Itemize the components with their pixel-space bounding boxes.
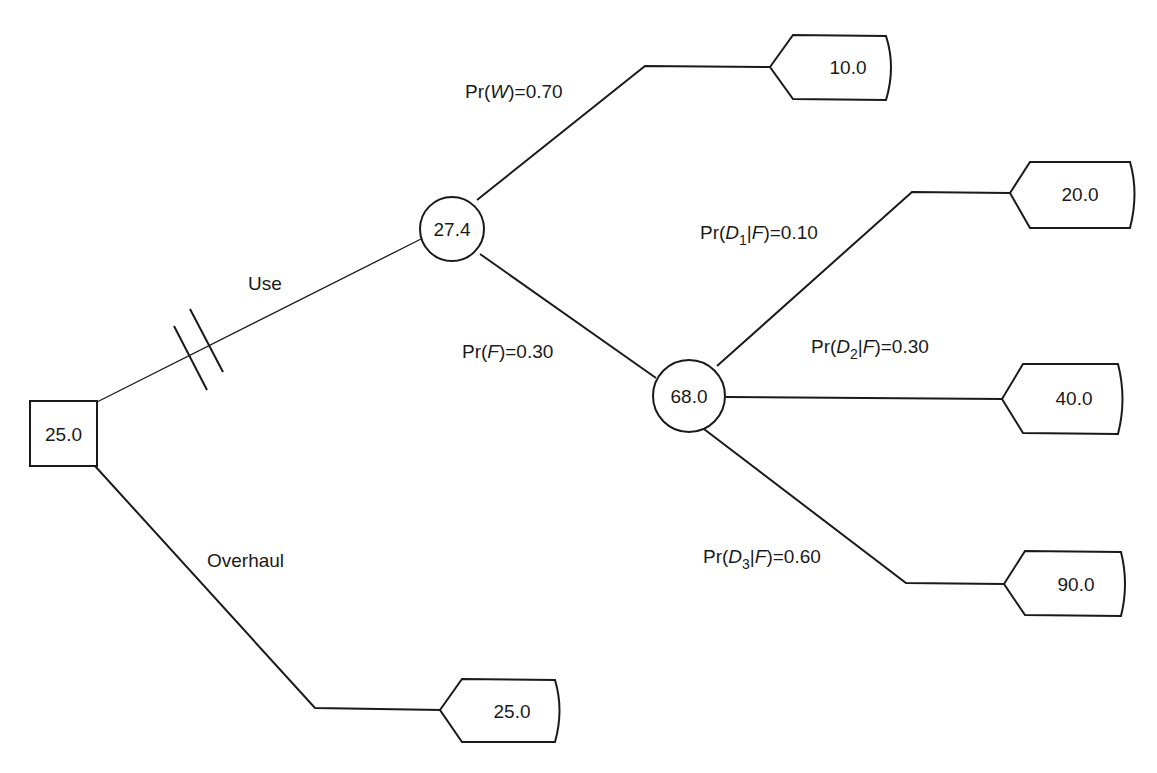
- branch-label-use: Use: [248, 273, 282, 294]
- branch-label-d3: Pr(D3|F)=0.60: [703, 546, 821, 572]
- chance-node-use: 27.4: [420, 197, 484, 261]
- edge-overhaul: [95, 466, 442, 710]
- terminal-node-d2: 40.0: [1002, 364, 1123, 434]
- branch-label-fails: Pr(F)=0.30: [462, 341, 553, 362]
- branch-label-overhaul: Overhaul: [207, 550, 284, 571]
- terminal-node-d3: 90.0: [1004, 551, 1125, 616]
- terminal-node-works: 10.0: [770, 35, 891, 100]
- chance-node-failure: 68.0: [653, 360, 725, 432]
- chance-node-failure-value: 68.0: [671, 386, 708, 407]
- decision-node: 25.0: [30, 401, 97, 466]
- decision-tree-diagram: 25.0 27.4 68.0 10.0 20.0 40.0 90.0 25.0 …: [0, 0, 1157, 773]
- blocked-branch-marker: [174, 326, 207, 390]
- decision-node-value: 25.0: [45, 424, 82, 445]
- terminal-node-overhaul: 25.0: [440, 679, 560, 742]
- terminal-overhaul-value: 25.0: [494, 701, 531, 722]
- branch-label-works: Pr(W)=0.70: [465, 81, 563, 102]
- terminal-node-d1: 20.0: [1010, 162, 1135, 228]
- branch-label-d1: Pr(D1|F)=0.10: [700, 222, 818, 248]
- terminal-works-value: 10.0: [830, 57, 867, 78]
- terminal-d1-value: 20.0: [1062, 184, 1099, 205]
- terminal-d2-value: 40.0: [1056, 388, 1093, 409]
- branch-label-d2: Pr(D2|F)=0.30: [811, 336, 929, 362]
- edge-use: [97, 238, 423, 402]
- edge-d2: [726, 397, 1002, 399]
- chance-node-use-value: 27.4: [434, 219, 471, 240]
- terminal-d3-value: 90.0: [1058, 574, 1095, 595]
